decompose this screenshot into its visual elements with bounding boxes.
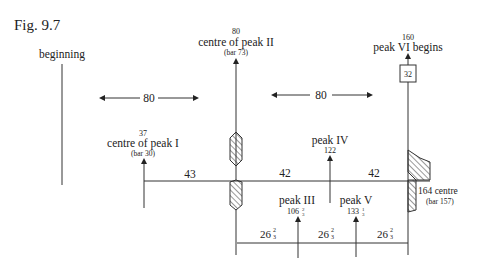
- peak-v-value: 133: [347, 207, 359, 216]
- hatched-wedge-upper: [408, 150, 430, 180]
- beginning-marker: beginning: [39, 48, 85, 185]
- peak-ii-marker: 80 centre of peak II (bar 73): [198, 27, 274, 255]
- hatched-bar-upper: [230, 132, 242, 166]
- svg-text:3: 3: [273, 234, 276, 240]
- peak-iii-marker: peak III 106 2 3: [279, 194, 315, 258]
- peak-iii-value: 106: [287, 207, 299, 216]
- span-bottom-1: 26 2 3: [260, 227, 276, 240]
- peak-i-bar: (bar 30): [131, 149, 155, 158]
- hatched-wedge-lower: [408, 180, 416, 212]
- span-mid-left-value: 43: [184, 168, 196, 180]
- svg-text:3: 3: [302, 212, 305, 217]
- centre-164-bar: (bar 157): [426, 197, 454, 206]
- svg-text:2: 2: [390, 227, 393, 233]
- span-top-left: 80: [102, 92, 196, 104]
- centre-164-label: 164 centre: [418, 186, 458, 196]
- svg-text:3: 3: [331, 234, 334, 240]
- peak-i-marker: 37 centre of peak I (bar 30): [107, 129, 179, 208]
- peak-vi-label: peak VI begins: [373, 41, 443, 54]
- svg-text:2: 2: [331, 227, 334, 233]
- peak-v-marker: peak V 133 1 3: [340, 194, 373, 257]
- span-bottom-2: 26 2 3: [318, 227, 334, 240]
- svg-text:26: 26: [318, 228, 330, 240]
- peak-ii-value: 80: [232, 27, 240, 36]
- span-top-left-value: 80: [143, 92, 155, 104]
- centre-164-marker: 164 centre (bar 157): [418, 186, 458, 206]
- peak-iii-label: peak III: [279, 194, 315, 207]
- svg-text:2: 2: [273, 227, 276, 233]
- peak-iv-value: 122: [324, 146, 336, 155]
- svg-text:26: 26: [377, 228, 389, 240]
- span-top-right: 80: [274, 89, 370, 101]
- span-top-right-value: 80: [315, 89, 327, 101]
- hatched-bar-lower: [230, 180, 242, 210]
- peak-vi-marker: 160 peak VI begins 32: [373, 33, 443, 255]
- span-mid-center-value: 42: [279, 167, 291, 179]
- span-bottom-3: 26 2 3: [377, 227, 393, 240]
- figure-label: Fig. 9.7: [14, 17, 61, 33]
- peak-vi-box-value: 32: [404, 70, 412, 79]
- peak-iv-marker: peak IV 122: [312, 134, 349, 203]
- diagram-canvas: Fig. 9.7 beginning 80 80 centre of peak …: [0, 0, 477, 270]
- span-mid-right-value: 42: [368, 167, 380, 179]
- svg-text:3: 3: [390, 234, 393, 240]
- peak-ii-bar: (bar 73): [224, 48, 248, 57]
- svg-text:26: 26: [260, 228, 272, 240]
- peak-v-label: peak V: [340, 194, 373, 207]
- svg-text:3: 3: [362, 212, 365, 217]
- beginning-label: beginning: [39, 48, 85, 61]
